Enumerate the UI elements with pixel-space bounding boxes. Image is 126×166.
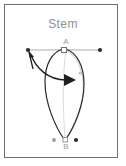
left-endpoint-dot — [26, 48, 30, 52]
ghost-loop-left — [63, 50, 66, 138]
figure-root: Stem A B — [0, 0, 126, 166]
curved-sweep-arrow-shaft — [31, 55, 66, 80]
stem-loop-right-branch — [66, 49, 84, 139]
right-endpoint-dot — [98, 48, 102, 52]
ghost-midpoint-dot — [78, 71, 81, 74]
stem-loop-left-branch — [45, 49, 64, 139]
point-b-label: B — [56, 142, 76, 151]
point-a-label: A — [56, 37, 76, 46]
curved-sweep-arrow-head — [64, 74, 76, 86]
point-a-square-marker — [62, 48, 67, 53]
